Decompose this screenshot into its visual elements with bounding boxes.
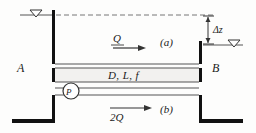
right-wall-upper	[199, 41, 202, 64]
label-reservoir-a: A	[17, 62, 24, 74]
label-pump: P	[66, 88, 72, 97]
left-wall-middle	[52, 68, 55, 82]
delta-z-arrow-up	[206, 17, 211, 22]
right-wall-lower	[199, 95, 202, 121]
flow-arrow-q	[113, 45, 146, 51]
left-wall-lower	[52, 95, 55, 121]
label-case-a: (a)	[160, 37, 173, 48]
label-case-b: (b)	[160, 104, 173, 115]
label-reservoir-b: B	[212, 62, 219, 74]
pipe-system-diagram: A B (a) (b) D, L, f Q 2Q Δz P	[0, 0, 256, 133]
label-pipe-properties: D, L, f	[108, 70, 139, 81]
label-flow-2q: 2Q	[110, 112, 123, 123]
right-reservoir-base	[199, 119, 243, 123]
right-water-surface-triangle	[228, 40, 240, 47]
label-flow-q: Q	[113, 33, 121, 44]
label-delta-z: Δz	[213, 25, 223, 35]
delta-z-arrow-down	[206, 38, 211, 43]
left-reservoir-base	[12, 119, 55, 123]
left-wall-upper	[52, 10, 55, 64]
left-water-surface-triangle	[30, 10, 42, 17]
right-wall-middle	[199, 68, 202, 82]
